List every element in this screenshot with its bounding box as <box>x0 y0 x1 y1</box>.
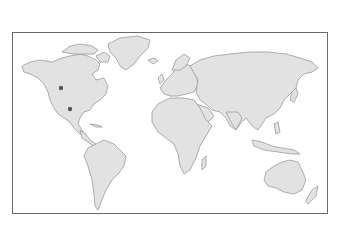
australia <box>264 160 306 194</box>
philippines <box>274 122 280 134</box>
caribbean-islands <box>90 124 102 127</box>
iceland <box>148 58 158 64</box>
british-isles <box>158 74 164 84</box>
central-america <box>80 130 96 146</box>
southeast-asia-islands <box>252 140 300 154</box>
north-america <box>22 54 108 136</box>
arctic-islands <box>62 44 98 54</box>
new-zealand <box>306 186 318 204</box>
greenland <box>108 36 150 70</box>
madagascar <box>202 156 206 170</box>
south-america <box>84 140 126 210</box>
world-map <box>0 0 342 226</box>
baffin-island <box>96 52 110 62</box>
location-marker-2[interactable] <box>68 107 72 111</box>
location-marker-1[interactable] <box>59 86 63 90</box>
